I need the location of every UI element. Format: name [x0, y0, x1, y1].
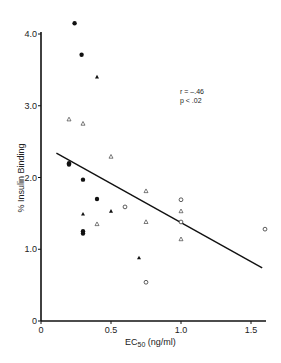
x-axis-label-unit: (ng/ml): [145, 337, 176, 347]
y-tick-label: 3.0: [24, 101, 37, 111]
filled-triangle-point: [137, 256, 141, 260]
open-circle-point: [179, 220, 183, 224]
regression-line: [56, 153, 262, 268]
y-tick-label: 1.0: [24, 244, 37, 254]
scatter-chart: 00.51.01.501.02.03.04.0 r = –.46 p < .02…: [0, 0, 281, 363]
y-tick-label: 4.0: [24, 29, 37, 39]
filled-triangle-point: [81, 212, 85, 216]
filled-circle-point: [81, 231, 85, 235]
open-circle-point: [144, 280, 148, 284]
filled-circle-point: [72, 21, 76, 25]
open-triangle-point: [109, 154, 113, 158]
x-axis-label-main: EC: [125, 337, 138, 347]
filled-triangle-point: [95, 75, 99, 79]
open-circle-point: [179, 198, 183, 202]
filled-circle-point: [81, 177, 85, 181]
filled-circle-point: [79, 53, 83, 57]
filled-circle-point: [95, 197, 99, 201]
ticks: 00.51.01.501.02.03.04.0: [24, 29, 257, 335]
x-axis-label: EC50 (ng/ml): [125, 337, 176, 348]
open-triangle-point: [144, 189, 148, 193]
x-tick-label: 0: [38, 325, 43, 335]
p-value-annotation: p < .02: [180, 97, 202, 105]
open-triangle-point: [67, 117, 71, 121]
open-circle-point: [263, 227, 267, 231]
regression-line-path: [56, 153, 262, 268]
open-triangle-point: [81, 121, 85, 125]
open-triangle-point: [179, 209, 183, 213]
x-tick-label: 1.0: [175, 325, 188, 335]
x-tick-label: 1.5: [245, 325, 258, 335]
open-triangle-point: [144, 220, 148, 224]
open-triangle-point: [95, 222, 99, 226]
filled-triangle-point: [109, 209, 113, 213]
axes: [41, 32, 266, 321]
y-tick-label: 2.0: [24, 173, 37, 183]
filled-circle-point: [67, 162, 71, 166]
x-tick-label: 0.5: [105, 325, 118, 335]
data-points: [67, 21, 267, 284]
open-triangle-point: [179, 237, 183, 241]
open-circle-point: [123, 205, 127, 209]
correlation-annotation: r = –.46: [180, 88, 204, 95]
y-tick-label: 0: [32, 316, 37, 326]
x-axis-label-subscript: 50: [138, 341, 146, 348]
y-axis-label: % Insulin Binding: [16, 143, 26, 212]
